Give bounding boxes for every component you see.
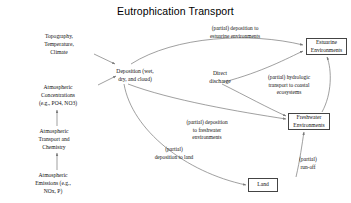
page-title: Eutrophication Transport bbox=[0, 5, 351, 17]
node-land: Land bbox=[248, 178, 278, 192]
edge-deposition-to-estuarine bbox=[131, 38, 303, 64]
node-topography: Topography, Temperature, Climate bbox=[22, 33, 96, 57]
node-estuarine-environments: Estuarine Environments bbox=[306, 38, 347, 55]
node-atmospheric-concentrations: Atmospheric Concentrations (e.g., PO4, N… bbox=[18, 84, 98, 108]
eutrophication-transport-diagram: Eutrophication Transport Topography, Tem… bbox=[0, 0, 351, 203]
edge-label-runoff: (partial) run-off bbox=[288, 156, 328, 171]
node-atmospheric-transport: Atmospheric Transport and Chemistry bbox=[16, 128, 92, 152]
edge-label-deposition-land: (partial) deposition to land bbox=[141, 146, 207, 161]
node-atmospheric-emissions: Atmospheric Emissions (e.g., NOx, P) bbox=[14, 172, 92, 196]
node-freshwater-environments: Freshwater Environments bbox=[288, 113, 330, 130]
node-direct-discharge: Direct discharge bbox=[196, 70, 244, 86]
edge-label-deposition-freshwater: (partial) deposition to freshwater envir… bbox=[172, 119, 242, 142]
edge-label-hydrologic-transport: (partial) hydrologic transport to coasta… bbox=[252, 74, 326, 97]
node-deposition: Deposition (wet, dry, and cloud) bbox=[98, 68, 172, 84]
edge-label-deposition-estuarine: (partial) deposition to estuarine enviro… bbox=[192, 25, 278, 40]
edge-topography-to-deposition bbox=[94, 54, 115, 64]
